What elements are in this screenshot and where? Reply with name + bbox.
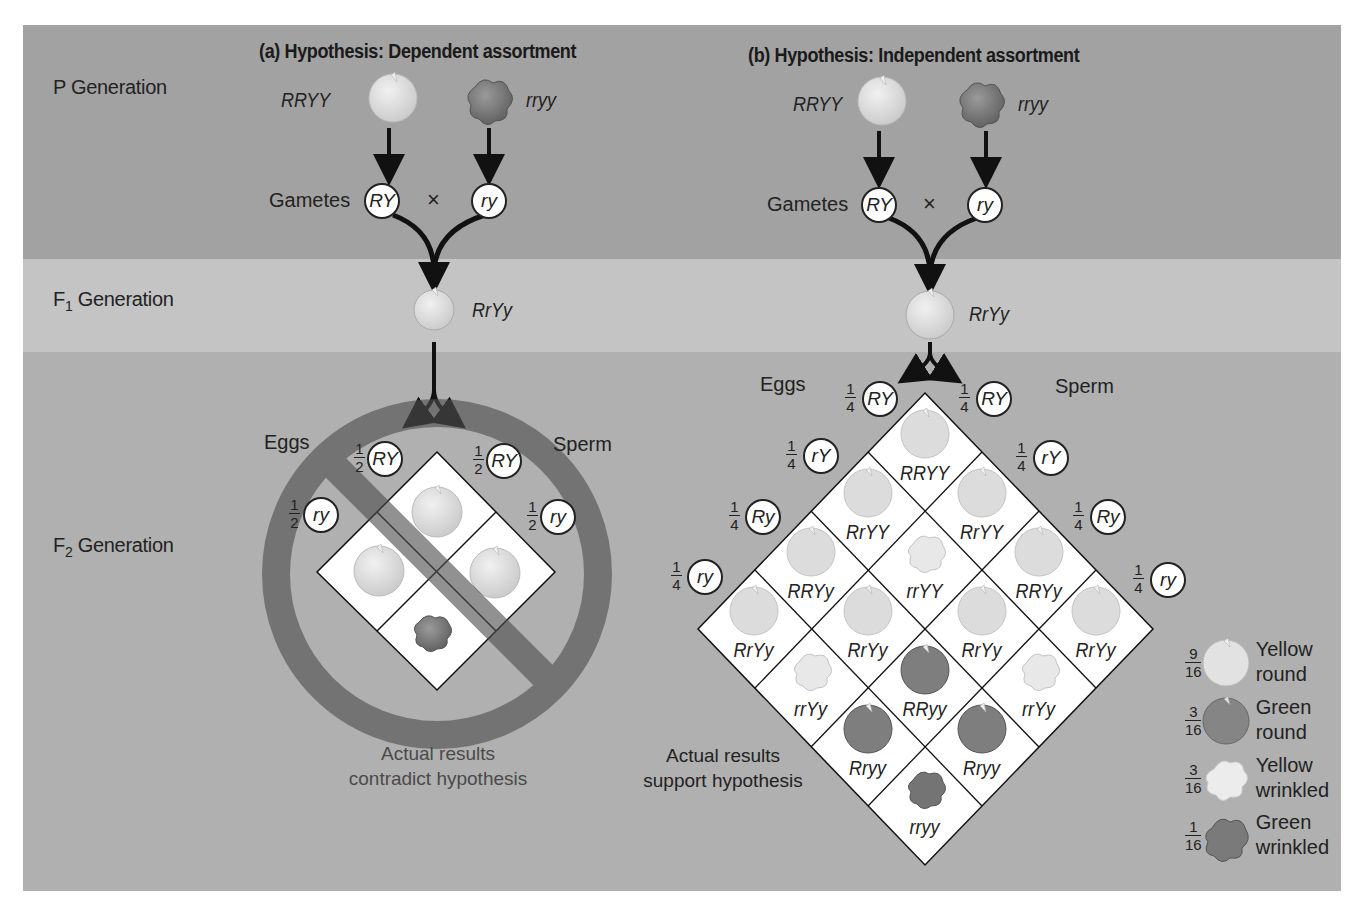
yellow-wrinkled-pea-icon (771, 640, 851, 700)
green-wrinkled-pea-icon (1202, 810, 1250, 860)
yellow-round-pea-icon (885, 404, 965, 464)
yellow-wrinkled-pea-icon (999, 640, 1079, 700)
panel-b-cross-symbol: × (923, 191, 936, 217)
panel-b-egg-fraction-3: 14 (729, 499, 740, 532)
panel-a-cross-symbol: × (427, 187, 440, 213)
yellow-round-pea-icon (999, 522, 1079, 582)
yellow-round-pea-icon (369, 72, 417, 122)
yellow-round-pea-icon (714, 581, 794, 641)
legend-item-green-wrinkled: 116 Greenwrinkled (1185, 810, 1329, 860)
yellow-round-pea-icon (858, 75, 906, 125)
punnett-cell: rryy (885, 758, 965, 848)
yellow-round-pea-icon (828, 463, 908, 523)
yellow-wrinkled-pea-icon (885, 522, 965, 582)
yellow-round-pea-icon (1202, 637, 1250, 687)
panel-b-gametes-label: Gametes (767, 193, 848, 216)
legend-fraction: 316 (1185, 704, 1202, 737)
f1-yellow-round-pea-icon (414, 287, 454, 330)
panel-a-gametes-label: Gametes (269, 189, 350, 212)
green-round-pea-icon (942, 699, 1022, 759)
yellow-round-pea-icon (942, 463, 1022, 523)
legend-fraction: 916 (1185, 646, 1202, 679)
panel-b-sperm-gamete-2: rY (1033, 440, 1069, 476)
green-wrinkled-pea-icon (885, 758, 965, 818)
panel-a-caption: Actual results contradict hypothesis (323, 741, 553, 791)
panel-a-sperm-fraction-2: 12 (527, 499, 538, 532)
legend-item-green-round: 316 Greenround (1185, 695, 1311, 745)
green-round-pea-icon (885, 640, 965, 700)
panel-a-sperm-gamete-2: ry (540, 499, 576, 535)
panel-b-caption: Actual results support hypothesis (623, 743, 823, 793)
panel-a-egg-gamete-1: RY (367, 441, 403, 477)
panel-a-sperm-label: Sperm (553, 433, 612, 456)
yellow-round-pea-icon (942, 581, 1022, 641)
yellow-wrinkled-pea-icon (1202, 753, 1250, 803)
panel-b-egg-fraction-2: 14 (786, 438, 797, 471)
green-round-pea-icon (828, 699, 908, 759)
legend-item-yellow-round: 916 Yellowround (1185, 637, 1313, 687)
panel-b-parent-left-genotype: RRYY (793, 93, 842, 116)
panel-b-gamete-right: ry (967, 187, 1003, 223)
panel-a-gamete-right: ry (471, 183, 507, 219)
yellow-round-pea-icon (828, 581, 908, 641)
panel-a-egg-fraction-2: 12 (289, 497, 300, 530)
panel-a-sperm-fraction-1: 12 (473, 443, 484, 476)
green-wrinkled-pea-icon (414, 616, 451, 652)
panel-a-eggs-label: Eggs (264, 431, 310, 454)
panel-a-egg-gamete-2: ry (303, 497, 339, 533)
panel-b-sperm-gamete-1: RY (976, 381, 1012, 417)
panel-b-sperm-label: Sperm (1055, 375, 1114, 398)
panel-b-parent-right-genotype: rryy (1018, 93, 1048, 116)
panel-b-gamete-left: RY (861, 187, 897, 223)
legend-fraction: 116 (1185, 819, 1202, 852)
f1-yellow-round-pea-icon (906, 288, 954, 339)
figure-panel: P Generation F1 Generation F2 Generation… (23, 25, 1341, 891)
legend-item-yellow-wrinkled: 316 Yellowwrinkled (1185, 753, 1329, 803)
green-wrinkled-pea-icon (960, 83, 1005, 128)
panel-b-sperm-gamete-4: ry (1150, 562, 1186, 598)
panel-a-f1-genotype: RrYy (472, 299, 512, 322)
green-round-pea-icon (1202, 695, 1250, 745)
green-wrinkled-pea-icon (468, 80, 513, 125)
panel-a-sperm-gamete-1: RY (486, 443, 522, 479)
legend-fraction: 316 (1185, 762, 1202, 795)
yellow-round-pea-icon (1056, 581, 1136, 641)
panel-b-sperm-gamete-3: Ry (1090, 499, 1126, 535)
yellow-round-pea-icon (771, 522, 851, 582)
punnett-cell-genotype: rryy (885, 816, 964, 839)
panel-b-eggs-label: Eggs (760, 373, 806, 396)
panel-b-title: (b) Hypothesis: Independent assortment (748, 44, 1079, 67)
panel-a-gamete-left: RY (364, 183, 400, 219)
panel-a-egg-fraction-1: 12 (354, 441, 365, 474)
panel-b-f1-genotype: RrYy (969, 303, 1009, 326)
panel-b-egg-fraction-4: 14 (671, 559, 682, 592)
panel-b-egg-fraction-1: 14 (845, 381, 856, 414)
